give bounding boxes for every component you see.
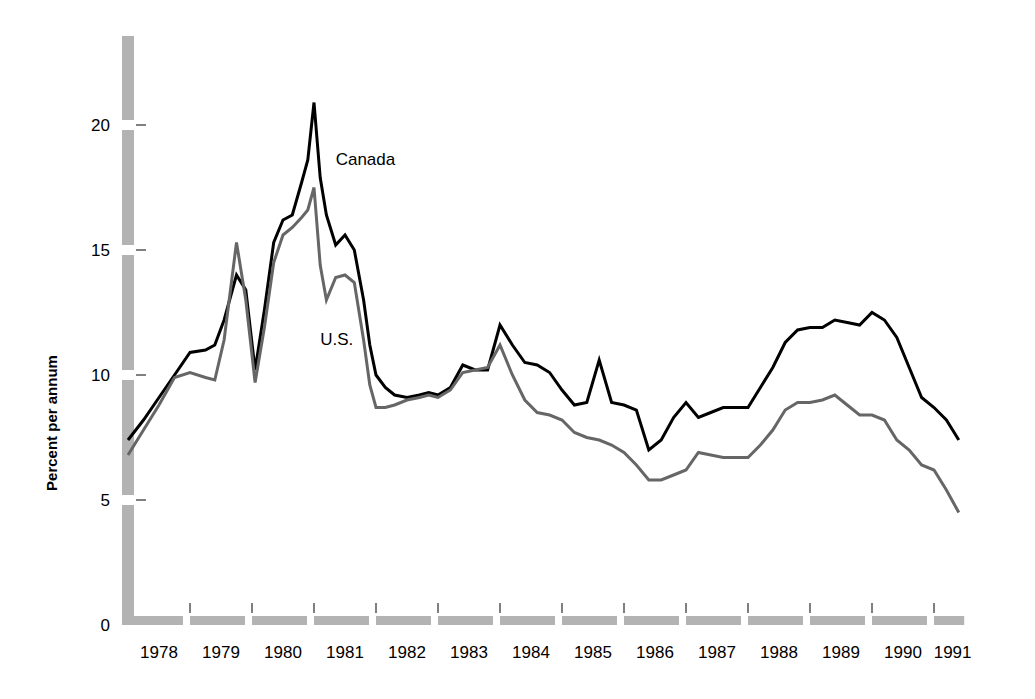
y-axis-bar <box>122 36 134 625</box>
x-axis-bar-segment-1987 <box>686 616 741 625</box>
line-chart: 05101520 1978197919801981198219831984198… <box>0 0 1035 699</box>
series-label-canada: Canada <box>336 150 396 169</box>
x-tick-label-1979: 1979 <box>202 643 240 662</box>
x-axis-bar-segment-1989 <box>810 616 865 625</box>
x-tick-label-1980: 1980 <box>264 643 302 662</box>
y-axis-tick-marks <box>136 124 146 501</box>
y-axis-bar-segment-2 <box>122 255 134 370</box>
x-axis-tick-labels: 1978197919801981198219831984198519861987… <box>140 643 971 662</box>
x-axis-bar-segment-1984 <box>500 616 555 625</box>
x-tick-label-1984: 1984 <box>512 643 550 662</box>
x-axis-bar-segment-1985 <box>562 616 617 625</box>
x-tick-mark-1982 <box>375 603 377 613</box>
x-tick-mark-1984 <box>499 603 501 613</box>
series-line-canada <box>128 103 959 451</box>
y-tick-label-15: 15 <box>91 241 110 260</box>
x-tick-mark-1985 <box>561 603 563 613</box>
x-tick-mark-1990 <box>871 603 873 613</box>
x-tick-label-1985: 1985 <box>574 643 612 662</box>
x-tick-mark-1979 <box>189 603 191 613</box>
x-axis-bar-segment-1988 <box>748 616 803 625</box>
x-axis-bar <box>134 616 964 625</box>
x-axis-bar-segment-1982 <box>376 616 431 625</box>
chart-container: 05101520 1978197919801981198219831984198… <box>0 0 1035 699</box>
y-axis-bar-segment-1 <box>122 130 134 245</box>
y-tick-label-10: 10 <box>91 366 110 385</box>
x-tick-label-1983: 1983 <box>450 643 488 662</box>
x-tick-label-1987: 1987 <box>698 643 736 662</box>
x-axis-bar-segment-1991 <box>934 616 964 625</box>
y-axis-corner <box>122 611 134 625</box>
y-tick-mark-5 <box>136 499 146 501</box>
data-series-lines <box>128 103 959 513</box>
x-tick-label-1989: 1989 <box>822 643 860 662</box>
x-axis-bar-segment-1990 <box>872 616 927 625</box>
x-tick-mark-1983 <box>437 603 439 613</box>
y-axis-tick-labels: 05101520 <box>91 116 110 635</box>
x-axis-bar-segment-1983 <box>438 616 493 625</box>
y-tick-mark-20 <box>136 124 146 126</box>
x-tick-mark-1989 <box>809 603 811 613</box>
x-tick-mark-1988 <box>747 603 749 613</box>
y-axis-bar-segment-0 <box>122 36 134 120</box>
x-tick-label-1988: 1988 <box>760 643 798 662</box>
x-tick-label-1986: 1986 <box>636 643 674 662</box>
series-line-u-s <box>128 188 959 513</box>
x-tick-mark-1986 <box>623 603 625 613</box>
x-tick-label-1991: 1991 <box>934 643 972 662</box>
x-tick-mark-1991 <box>933 603 935 613</box>
x-tick-label-1981: 1981 <box>326 643 364 662</box>
series-annotations: CanadaU.S. <box>320 150 396 349</box>
x-tick-mark-1981 <box>313 603 315 613</box>
x-axis-bar-segment-1978 <box>134 616 183 625</box>
y-tick-mark-15 <box>136 249 146 251</box>
y-tick-label-20: 20 <box>91 116 110 135</box>
y-tick-label-5: 5 <box>101 491 110 510</box>
y-axis-bar-segment-4 <box>122 505 134 620</box>
y-axis-title: Percent per annum <box>43 355 60 491</box>
y-axis-bar-segment-3 <box>122 380 134 495</box>
x-axis-bar-segment-1979 <box>190 616 245 625</box>
y-tick-label-0: 0 <box>101 616 110 635</box>
series-label-u-s: U.S. <box>320 330 353 349</box>
x-tick-mark-1980 <box>251 603 253 613</box>
x-axis-tick-marks <box>189 603 935 613</box>
x-axis-bar-segment-1981 <box>314 616 369 625</box>
x-tick-label-1978: 1978 <box>140 643 178 662</box>
x-axis-bar-segment-1986 <box>624 616 679 625</box>
y-tick-mark-10 <box>136 374 146 376</box>
x-tick-label-1982: 1982 <box>388 643 426 662</box>
x-tick-mark-1987 <box>685 603 687 613</box>
x-tick-label-1990: 1990 <box>884 643 922 662</box>
x-axis-bar-segment-1980 <box>252 616 307 625</box>
